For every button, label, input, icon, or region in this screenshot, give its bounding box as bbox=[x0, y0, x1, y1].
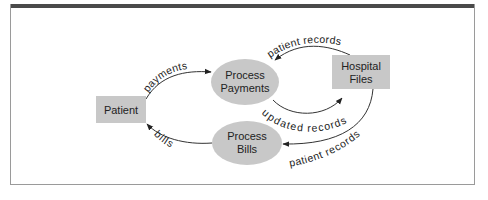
data-flow-diagram: payments patient records updated records… bbox=[0, 0, 488, 200]
flow-label-patient-records-top: patient records bbox=[264, 33, 342, 60]
node-process-bills: Process Bills bbox=[212, 121, 282, 165]
node-hospital-files: Hospital Files bbox=[332, 55, 390, 89]
node-process-payments: Process Payments bbox=[211, 59, 279, 105]
process-payments-line2: Payments bbox=[221, 82, 270, 94]
updated-records-arrow bbox=[273, 98, 342, 113]
process-bills-line2: Bills bbox=[237, 143, 258, 155]
flow-label-payments: payments bbox=[140, 59, 188, 94]
node-patient: Patient bbox=[96, 96, 146, 123]
patient-label: Patient bbox=[104, 104, 138, 116]
process-bills-line1: Process bbox=[227, 130, 267, 142]
flow-label-patient-records-bottom: patient records bbox=[288, 127, 362, 169]
process-payments-line1: Process bbox=[225, 69, 265, 81]
hospital-files-line1: Hospital bbox=[341, 60, 381, 72]
hospital-files-line2: Files bbox=[349, 73, 373, 85]
